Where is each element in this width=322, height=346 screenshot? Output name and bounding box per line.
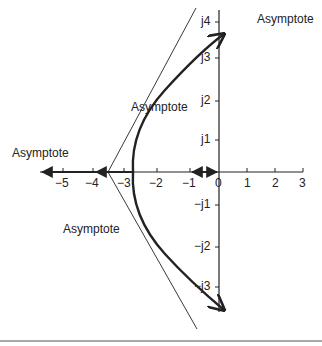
tick-label-real: 0 xyxy=(215,177,222,189)
tick-label-imag: −j2 xyxy=(194,240,210,252)
asymptote-label-bottom-left: Asymptote xyxy=(63,223,120,235)
tick-label-imag: −j1 xyxy=(194,198,210,210)
tick-label-real: −3 xyxy=(117,177,131,189)
tick-label-real: 1 xyxy=(244,177,251,189)
asymptote-label-top-right: Asymptote xyxy=(257,13,314,25)
root-locus-plot xyxy=(0,0,322,346)
asymptote-lower-line xyxy=(108,172,197,329)
tick-label-real: −2 xyxy=(149,177,163,189)
asymptote-upper-line xyxy=(108,8,196,172)
tick-label-real: −1 xyxy=(182,177,196,189)
tick-label-real: 3 xyxy=(299,177,306,189)
tick-label-imag: j1 xyxy=(201,133,210,145)
tick-label-imag: j2 xyxy=(201,94,210,106)
asymptote-label-left: Asymptote xyxy=(12,147,69,159)
tick-label-imag: j3 xyxy=(201,51,210,63)
tick-label-imag: −j3 xyxy=(194,280,210,292)
tick-label-imag: j4 xyxy=(201,15,210,27)
tick-label-real: 2 xyxy=(272,177,279,189)
tick-label-real: −4 xyxy=(85,177,99,189)
asymptote-label-middle: Asymptote xyxy=(131,101,188,113)
tick-label-real: −5 xyxy=(55,177,69,189)
